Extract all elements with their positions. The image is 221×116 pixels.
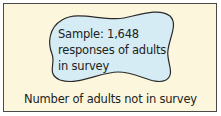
sample-line-2: responses of adults — [58, 42, 166, 58]
sample-line-1: Sample: 1,648 — [58, 26, 166, 42]
population-label: Number of adults not in survey — [0, 92, 221, 106]
sample-line-3: in survey — [58, 58, 166, 74]
sample-text: Sample: 1,648 responses of adults in sur… — [58, 26, 166, 74]
